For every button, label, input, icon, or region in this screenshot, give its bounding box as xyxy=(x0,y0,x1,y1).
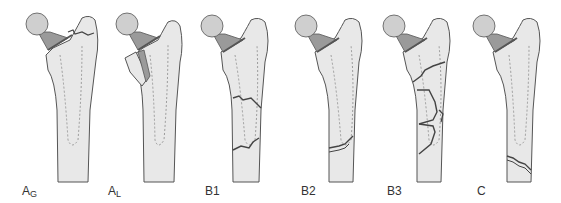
label-b2: B2 xyxy=(301,184,316,198)
label-b3: B3 xyxy=(387,184,402,198)
femur-illustration-al xyxy=(100,0,195,203)
label-c: C xyxy=(477,184,486,198)
femur-illustration-b2 xyxy=(287,0,382,203)
panel-b1: B1 xyxy=(193,0,288,203)
panel-b2: B2 xyxy=(287,0,382,203)
panel-ag: AG xyxy=(10,0,105,203)
label-b1: B1 xyxy=(205,184,220,198)
panel-al: AL xyxy=(100,0,195,203)
panel-b3: B3 xyxy=(375,0,470,203)
panel-c: C xyxy=(465,0,560,203)
label-al: AL xyxy=(108,184,121,199)
label-ag: AG xyxy=(22,184,37,199)
femur-illustration-ag xyxy=(10,0,105,203)
femur-illustration-b1 xyxy=(193,0,288,203)
femur-illustration-b3 xyxy=(375,0,470,203)
femur-illustration-c xyxy=(465,0,560,203)
